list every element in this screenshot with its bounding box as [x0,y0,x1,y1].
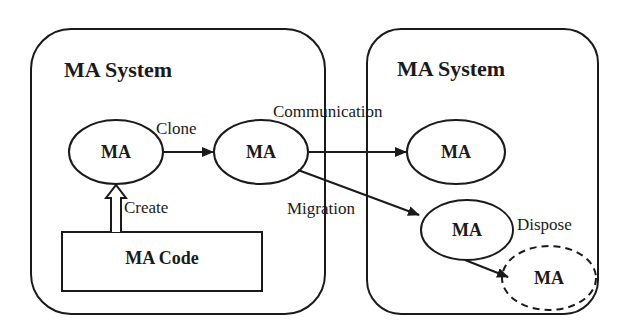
communication-label: Communication [273,102,383,121]
migration-edge: Migration [287,170,419,218]
ma-code-label: MA Code [125,248,199,268]
communication-edge: Communication [273,102,406,152]
ma-node-3-label: MA [441,142,471,162]
dispose-edge [465,260,508,277]
ma-node-2: MA [214,120,308,184]
ma-code-box: MA Code [62,232,262,291]
ma-node-1: MA [69,120,163,184]
ma-node-5-disposed: MA [502,246,596,310]
ma-node-4-label: MA [452,220,482,240]
ma-node-5-label: MA [534,268,564,288]
dispose-label: Dispose [517,215,572,234]
ma-node-1-label: MA [101,142,131,162]
ma-node-4: MA Dispose [421,200,572,260]
ma-node-3: MA [407,120,505,184]
ma-node-2-label: MA [246,142,276,162]
ma-diagram: MA System MA System MA Code Create MA Cl… [0,0,626,328]
create-label: Create [124,198,168,217]
left-system-box: MA System [31,29,325,314]
migration-label: Migration [287,199,355,218]
right-system-title: MA System [397,56,505,81]
left-system-title: MA System [64,57,172,82]
create-arrow: Create [106,185,168,232]
clone-edge: Clone [156,119,213,152]
clone-label: Clone [156,119,197,138]
